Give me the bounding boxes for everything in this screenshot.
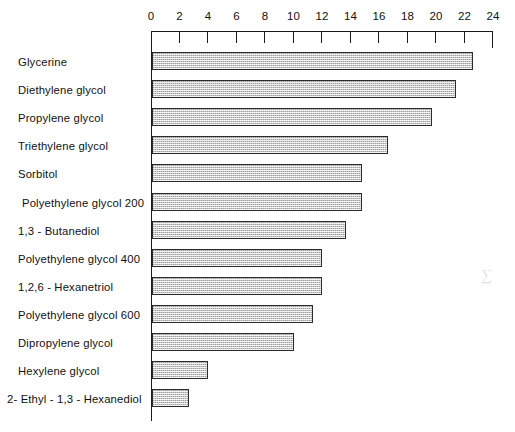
bar-category-label: Dipropylene glycol <box>0 329 140 357</box>
bar <box>152 277 322 295</box>
x-axis-tick-label: 14 <box>344 10 357 23</box>
x-axis-frame <box>151 31 493 48</box>
bar-row: Polyethylene glycol 200 <box>0 189 515 217</box>
bar-category-label: 1,3 - Butanediol <box>0 217 140 245</box>
x-axis-tick-mark <box>179 32 180 43</box>
x-axis-tick-label: 0 <box>148 10 155 23</box>
bar-category-label-text: Sorbitol <box>18 168 58 180</box>
bar-category-label: Propylene glycol <box>0 104 140 132</box>
bar-category-label-text: Triethylene glycol <box>18 140 108 152</box>
bar-category-label-text: Polyethylene glycol 200 <box>22 197 144 209</box>
x-axis-tick-mark <box>236 32 237 43</box>
bar-category-label-text: Propylene glycol <box>18 112 103 124</box>
bar-row: Hexylene glycol <box>0 357 515 385</box>
x-axis-tick-label: 4 <box>205 10 212 23</box>
x-axis-tick-mark <box>464 32 465 43</box>
bar-row: Sorbitol <box>0 160 515 188</box>
bar-category-label-text: Polyethylene glycol 600 <box>18 309 140 321</box>
x-axis-tick-label: 24 <box>486 10 499 23</box>
x-axis-tick-label: 22 <box>458 10 471 23</box>
bar-category-label: 1,2,6 - Hexanetriol <box>0 273 140 301</box>
bar-category-label-text: 1,2,6 - Hexanetriol <box>18 281 113 293</box>
x-axis-tick-label: 6 <box>233 10 240 23</box>
x-axis-tick-mark <box>407 32 408 43</box>
bar <box>152 305 313 323</box>
x-axis-tick-mark <box>435 32 436 43</box>
bar <box>152 389 189 407</box>
x-axis-tick-label: 10 <box>287 10 300 23</box>
x-axis-tick-label: 8 <box>262 10 269 23</box>
bar-row: Diethylene glycol <box>0 76 515 104</box>
bar-row: Triethylene glycol <box>0 132 515 160</box>
bar-category-label: Triethylene glycol <box>0 132 140 160</box>
bar-chart: 024681012141618202224 GlycerineDiethylen… <box>0 0 515 432</box>
bar-row: Polyethylene glycol 600 <box>0 301 515 329</box>
bar-category-label-text: Diethylene glycol <box>18 84 106 96</box>
bar <box>152 164 362 182</box>
bar-category-label: Glycerine <box>0 48 140 76</box>
bar <box>152 221 346 239</box>
bar <box>152 80 456 98</box>
x-axis-tick-mark <box>350 32 351 43</box>
bar-row: 1,3 - Butanediol <box>0 217 515 245</box>
bar <box>152 333 294 351</box>
bar-category-label: Polyethylene glycol 400 <box>0 245 140 273</box>
bar <box>152 108 432 126</box>
bar-category-label-text: Glycerine <box>18 56 67 68</box>
x-axis-tick-mark <box>293 32 294 43</box>
bar <box>152 52 473 70</box>
bar-category-label-text: Hexylene glycol <box>18 365 99 377</box>
x-axis-tick-label: 20 <box>429 10 442 23</box>
plot-area: GlycerineDiethylene glycolPropylene glyc… <box>0 48 515 432</box>
x-axis-tick-mark <box>378 32 379 43</box>
bar <box>152 193 362 211</box>
bar-category-label-text: 2- Ethyl - 1,3 - Hexanediol <box>7 393 142 405</box>
x-axis-tick-label: 18 <box>401 10 414 23</box>
bar-category-label: Hexylene glycol <box>0 357 140 385</box>
bar-category-label: Sorbitol <box>0 160 140 188</box>
bar-category-label-text: Dipropylene glycol <box>18 337 113 349</box>
bar-category-label: Polyethylene glycol 600 <box>0 301 140 329</box>
bar-category-label: Diethylene glycol <box>0 76 140 104</box>
x-axis-tick-mark <box>264 32 265 43</box>
x-axis-tick-label: 12 <box>315 10 328 23</box>
bar-category-label: 2- Ethyl - 1,3 - Hexanediol <box>0 385 140 413</box>
bar-row: Propylene glycol <box>0 104 515 132</box>
bar-category-label: Polyethylene glycol 200 <box>0 189 140 217</box>
x-axis-tick-labels: 024681012141618202224 <box>0 10 515 28</box>
x-axis-tick-mark <box>207 32 208 43</box>
bar <box>152 136 388 154</box>
bar-row: Polyethylene glycol 400 <box>0 245 515 273</box>
x-axis-tick-mark <box>321 32 322 43</box>
bar-category-label-text: Polyethylene glycol 400 <box>18 253 140 265</box>
bar-row: 1,2,6 - Hexanetriol <box>0 273 515 301</box>
x-axis-tick-label: 16 <box>372 10 385 23</box>
bar-row: Glycerine <box>0 48 515 76</box>
bar-row: 2- Ethyl - 1,3 - Hexanediol <box>0 385 515 413</box>
bar <box>152 361 208 379</box>
x-axis-tick-label: 2 <box>176 10 183 23</box>
bar-category-label-text: 1,3 - Butanediol <box>18 225 100 237</box>
bar <box>152 249 322 267</box>
bar-row: Dipropylene glycol <box>0 329 515 357</box>
